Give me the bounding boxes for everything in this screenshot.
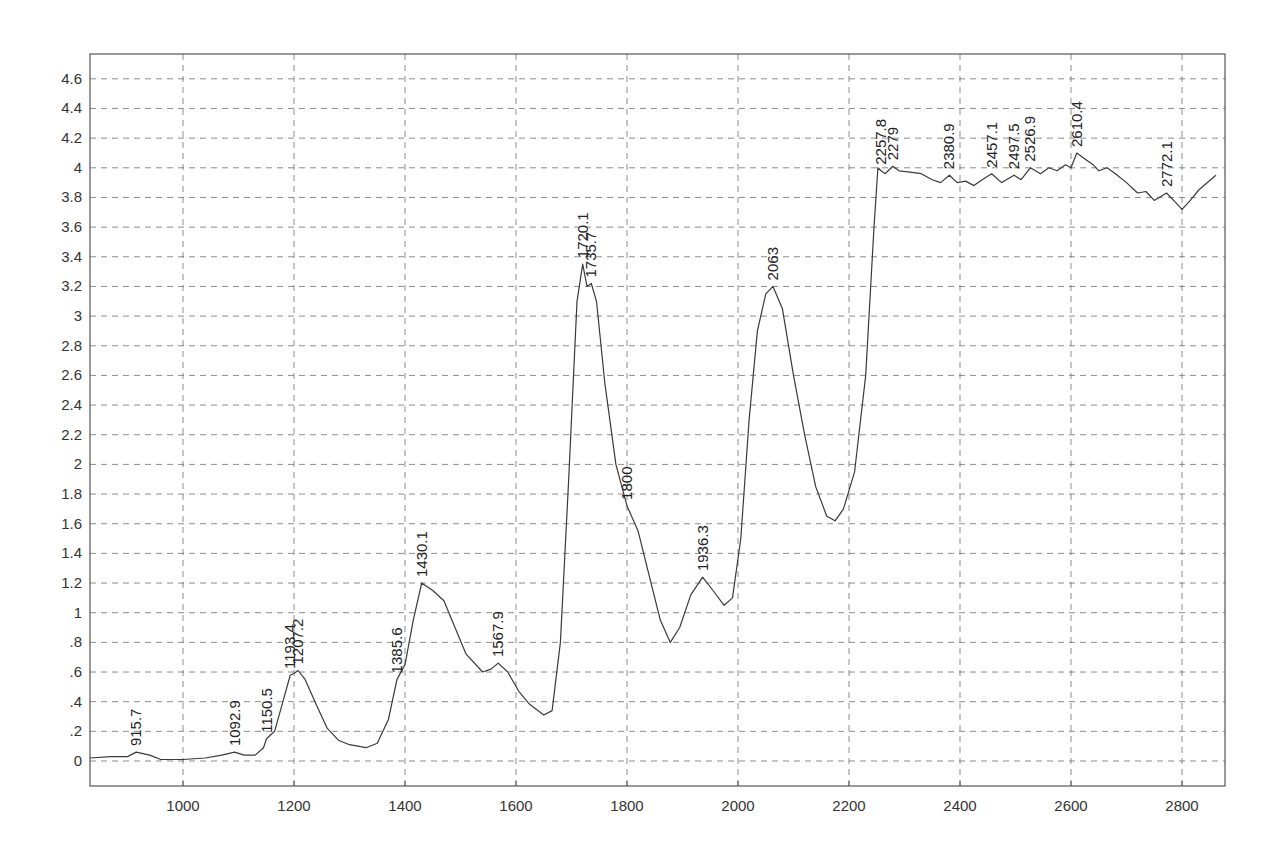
x-tick-label: 2200 [832,797,865,814]
peak-label: 1567.9 [489,611,506,657]
peak-label: 2279 [884,127,901,160]
x-tick-label: 2000 [721,797,754,814]
peak-label: 1092.9 [226,700,243,746]
y-tick-label: 2.6 [61,366,82,383]
spectrum-line [90,153,1216,760]
y-tick-label: .2 [69,722,82,739]
x-tick-label: 1600 [499,797,532,814]
y-tick-label: .4 [69,693,82,710]
y-tick-label: 4 [74,159,82,176]
y-tick-label: 1.4 [61,544,82,561]
y-tick-label: 3 [74,307,82,324]
peak-label: 1207.2 [289,619,306,665]
y-tick-label: 3.2 [61,277,82,294]
y-tick-label: .8 [69,633,82,650]
x-tick-label: 1800 [610,797,643,814]
y-tick-label: 2.8 [61,337,82,354]
peak-label: 1385.6 [388,628,405,674]
y-tick-label: 1 [74,604,82,621]
x-tick-label: 1200 [277,797,310,814]
y-tick-label: 2.2 [61,426,82,443]
plot-frame [90,54,1225,786]
y-tick-label: 4.6 [61,70,82,87]
spectrum-chart: 0.2.4.6.811.21.41.61.822.22.42.62.833.23… [0,0,1278,854]
x-tick-label: 2600 [1054,797,1087,814]
y-tick-label: 2 [74,455,82,472]
y-tick-label: 3.8 [61,188,82,205]
y-axis-tick-labels: 0.2.4.6.811.21.41.61.822.22.42.62.833.23… [61,70,82,769]
peak-label: 915.7 [127,709,144,747]
y-tick-label: 3.4 [61,248,82,265]
y-tick-label: .6 [69,663,82,680]
y-tick-label: 4.2 [61,129,82,146]
peak-label: 1150.5 [258,688,275,733]
x-tick-label: 1000 [166,797,199,814]
y-tick-label: 0 [74,752,82,769]
y-tick-label: 4.4 [61,99,82,116]
peak-label: 2063 [764,247,781,280]
y-tick-label: 3.6 [61,218,82,235]
y-tick-label: 2.4 [61,396,82,413]
peak-label: 1735.7 [582,232,599,278]
x-tick-label: 2800 [1165,797,1198,814]
y-tick-label: 1.2 [61,574,82,591]
y-tick-label: 1.8 [61,485,82,502]
peak-label: 2457.1 [983,122,1000,168]
peak-label: 2610.4 [1068,101,1085,147]
peak-label: 1936.3 [694,525,711,571]
x-tick-label: 1400 [388,797,421,814]
peak-label: 1430.1 [413,531,430,577]
peak-label: 2772.1 [1158,141,1175,187]
peak-label: 2380.9 [940,123,957,169]
x-tick-label: 2400 [943,797,976,814]
grid-lines [90,54,1225,786]
peak-label: 2526.9 [1021,116,1038,162]
peak-label: 1800 [618,467,635,500]
x-axis-tick-labels: 1000120014001600180020002200240026002800 [166,797,1198,814]
y-tick-label: 1.6 [61,515,82,532]
peak-label: 2497.5 [1005,123,1022,169]
